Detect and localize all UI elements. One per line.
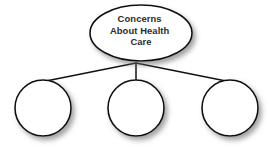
child-node-1[interactable] bbox=[15, 80, 71, 136]
center-node-label-line-1: Concerns bbox=[118, 13, 162, 24]
connector-center-to-child-1 bbox=[46, 63, 136, 81]
connector-group bbox=[46, 63, 226, 81]
child-node-3-circle[interactable] bbox=[202, 80, 258, 136]
center-node-label-line-3: Care bbox=[130, 36, 151, 47]
center-node-label-line-2: About Health bbox=[110, 25, 170, 36]
connector-center-to-child-3 bbox=[136, 63, 226, 81]
child-node-3[interactable] bbox=[202, 80, 258, 136]
child-node-2[interactable] bbox=[108, 80, 164, 136]
concept-map-diagram: Concerns About Health Care bbox=[0, 0, 269, 150]
diagram-canvas: Concerns About Health Care bbox=[0, 0, 269, 150]
center-node[interactable]: Concerns About Health Care bbox=[90, 5, 192, 61]
child-node-1-circle[interactable] bbox=[15, 80, 71, 136]
child-node-2-circle[interactable] bbox=[108, 80, 164, 136]
